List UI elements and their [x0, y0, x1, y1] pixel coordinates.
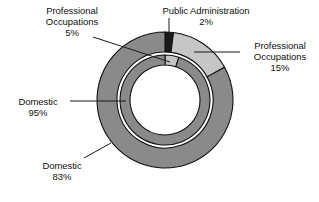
label-value: 95%: [8, 107, 68, 118]
label-domestic-outer: Domestic 83%: [32, 160, 92, 182]
nested-donut-chart: Professional Occupations 5% Public Admin…: [0, 0, 319, 202]
leader-line-domestic-outer: [84, 143, 111, 158]
label-professional-occupations-outer: Professional Occupations 15%: [243, 40, 317, 74]
label-professional-occupations-inner: Professional Occupations 5%: [26, 5, 118, 39]
label-public-administration: Public Administration 2%: [150, 5, 262, 27]
label-value: 15%: [243, 62, 317, 73]
label-domestic-inner: Domestic 95%: [8, 96, 68, 118]
label-line-1: Domestic: [32, 160, 92, 171]
label-line-2: Occupations: [26, 16, 118, 27]
label-line-2: Occupations: [243, 51, 317, 62]
label-value: 2%: [150, 16, 262, 27]
label-value: 83%: [32, 171, 92, 182]
label-value: 5%: [26, 27, 118, 38]
inner-slice-domestic: [120, 55, 210, 145]
label-line-1: Public Administration: [150, 5, 262, 16]
label-line-1: Professional: [26, 5, 118, 16]
label-line-1: Professional: [243, 40, 317, 51]
label-line-1: Domestic: [8, 96, 68, 107]
